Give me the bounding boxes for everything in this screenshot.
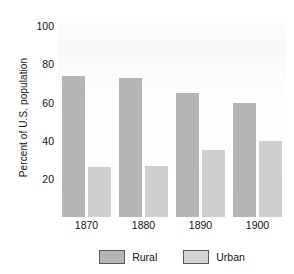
bar-rural-1900 — [233, 103, 256, 217]
x-tick-label: 1890 — [175, 219, 227, 231]
y-tick-label: 20 — [20, 174, 54, 184]
legend-item-rural[interactable]: Rural — [99, 250, 157, 264]
legend-swatch-icon — [99, 250, 125, 264]
y-tick-label: 60 — [20, 98, 54, 108]
x-tick-label: 1870 — [61, 219, 113, 231]
bar-rural-1880 — [119, 78, 142, 217]
bar-urban-1900 — [259, 141, 282, 217]
y-tick-label: 40 — [20, 136, 54, 146]
bar-urban-1890 — [202, 150, 225, 217]
plot-area — [58, 12, 286, 217]
bar-urban-1870 — [88, 167, 111, 217]
legend-label: Rural — [132, 251, 157, 263]
y-axis-tick-labels: 10080604020 — [16, 0, 54, 274]
bar-rural-1870 — [62, 76, 85, 217]
legend-label: Urban — [216, 251, 245, 263]
y-tick-label: 80 — [20, 59, 54, 69]
y-tick-label: 100 — [20, 21, 54, 31]
legend-swatch-icon — [183, 250, 209, 264]
x-axis-tick-labels: 1870188018901900 — [58, 219, 286, 235]
bar-urban-1880 — [145, 166, 168, 217]
legend-item-urban[interactable]: Urban — [183, 250, 245, 264]
bar-chart: y Percent of U.S. population 10080604020… — [0, 0, 294, 274]
x-tick-label: 1880 — [118, 219, 170, 231]
x-tick-label: 1900 — [232, 219, 284, 231]
bar-rural-1890 — [176, 93, 199, 217]
chart-legend: RuralUrban — [58, 246, 286, 268]
